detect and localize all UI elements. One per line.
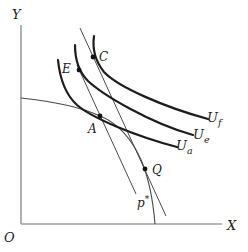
y-axis-label: Y xyxy=(12,7,22,22)
point-e-label: E xyxy=(61,62,71,76)
point-q-label: Q xyxy=(152,163,162,177)
price-line-through-a xyxy=(77,65,136,194)
curve-uf-label-sub: f xyxy=(217,117,223,128)
point-q-dot xyxy=(143,167,148,172)
curve-uf-label: Uf xyxy=(207,110,223,128)
indifference-curve-uf xyxy=(93,36,208,119)
point-c-dot xyxy=(91,55,96,60)
point-a-dot xyxy=(98,114,103,119)
curve-ue-label: Ue xyxy=(193,127,210,145)
curve-ua-label-sub: a xyxy=(187,145,193,156)
curve-ue-label-sub: e xyxy=(204,134,210,145)
curve-ua-label: Ua xyxy=(176,138,193,156)
diagram-canvas: Y X O E C A Q p* Uf Ue Ua xyxy=(0,0,248,252)
origin-label: O xyxy=(4,230,15,245)
ppf-curve xyxy=(21,98,155,224)
point-c-label: C xyxy=(99,50,108,64)
economics-diagram: Y X O E C A Q p* Uf Ue Ua xyxy=(0,0,248,252)
point-a-label: A xyxy=(87,122,97,136)
point-e-dot xyxy=(77,68,82,73)
price-label-sup: * xyxy=(145,194,150,204)
price-label: p* xyxy=(137,194,150,210)
x-axis-label: X xyxy=(226,218,237,233)
